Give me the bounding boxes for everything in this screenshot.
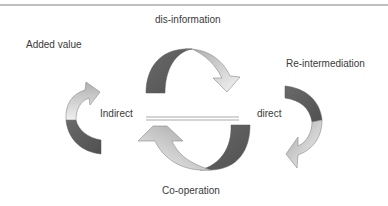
- center-double-line: [146, 117, 239, 120]
- top-curved-arrow: [146, 49, 240, 93]
- left-curved-arrow: [66, 82, 101, 154]
- right-curved-arrow: [285, 86, 322, 168]
- cycle-diagram: [0, 0, 388, 206]
- bottom-curved-arrow: [138, 125, 250, 170]
